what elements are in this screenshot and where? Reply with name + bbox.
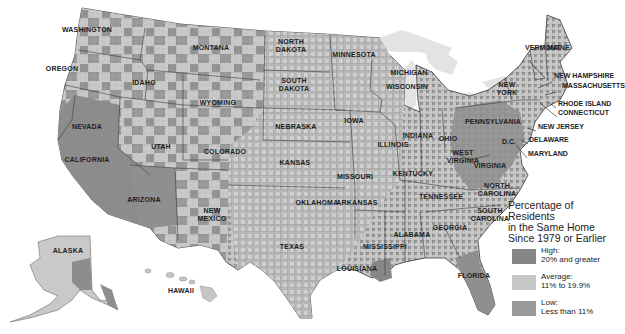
legend-range: 11% to 19.9% [541,282,590,291]
state-label: OHIO [439,135,458,143]
legend-swatch-average [512,275,536,290]
state-label: WYOMING [200,99,236,107]
legend: Percentage of Residents in the Same Home… [510,200,621,322]
state-label: OREGON [46,65,78,73]
state-label: TEXAS [280,243,304,251]
callout-label: D.C. [502,138,516,146]
callout-label: NEW JERSEY [538,123,584,131]
state-label: NORTH DAKOTA [276,38,307,54]
legend-item-low: Low: Less than 11% [510,299,621,322]
state-label: COLORADO [204,148,246,156]
state-label: LOUISIANA [337,265,377,273]
state-label: MISSISSIPPI [363,243,407,251]
state-label: IOWA [344,117,363,125]
state-label: FLORIDA [458,272,491,280]
state-label: MISSOURI [337,173,373,181]
state-label: GEORGIA [433,224,467,232]
state-label: NEW MEXICO [198,207,227,223]
state-label: NEVADA [72,123,102,131]
state-label: TENNESSEE [419,193,463,201]
state-label: SOUTH CAROLINA [471,207,510,223]
callout-label: MARYLAND [528,150,568,158]
state-label: NEBRASKA [275,123,316,131]
state-label: KENTUCKY [393,170,434,178]
state-label: OKLAHOMA [296,199,339,207]
state-label: CALIFORNIA [64,156,109,164]
legend-item-average: Average: 11% to 19.9% [510,273,621,296]
callout-label: RHODE ISLAND [558,100,611,108]
legend-text-high: High: 20% and greater [541,247,600,264]
state-label: ILLINOIS [377,141,408,149]
state-label: ARIZONA [127,196,160,204]
legend-title-line: Percentage of Residents [508,200,621,222]
state-label: UTAH [151,143,171,151]
legend-item-high: High: 20% and greater [510,247,621,270]
legend-range: Less than 11% [541,308,593,317]
state-label: HAWAII [168,287,194,295]
callout-label: CONNECTICUT [558,109,609,117]
state-label: MICHIGAN [391,69,428,77]
legend-range: 20% and greater [541,256,600,265]
callout-label: MASSACHUSETTS [562,82,625,90]
legend-swatch-low [512,301,536,316]
state-label: KANSAS [280,159,311,167]
state-label: WASHINGTON [62,26,112,34]
state-label: VIRGINIA [474,162,507,170]
state-label: NORTH CAROLINA [478,182,517,198]
state-label: MONTANA [193,44,230,52]
legend-swatch-high [512,249,536,264]
callout-label: DELAWARE [529,136,569,144]
legend-text-average: Average: 11% to 19.9% [541,273,590,290]
state-label: ALABAMA [394,231,431,239]
state-label: PENNSYLVANIA [465,118,521,126]
legend-title: Percentage of Residents in the Same Home… [508,200,621,244]
callout-label: MAINE [547,44,570,52]
state-label: MINNESOTA [332,51,375,59]
state-label: IDAHO [132,79,156,87]
state-label: NEW YORK [496,81,517,97]
callout-label: NEW HAMPSHIRE [554,72,614,80]
state-label: SOUTH DAKOTA [279,77,310,93]
legend-title-line: Since 1979 or Earlier [508,233,621,244]
state-label: ARKANSAS [336,199,377,207]
state-label: WISCONSIN [386,83,428,91]
legend-text-low: Low: Less than 11% [541,299,593,316]
state-label: ALASKA [53,247,83,255]
hawaii [145,269,217,302]
state-label: INDIANA [403,132,434,140]
